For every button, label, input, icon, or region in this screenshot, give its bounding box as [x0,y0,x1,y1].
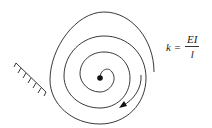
formula-lhs: k = [166,41,181,53]
formula-denominator: l [191,47,194,60]
center-pivot [97,75,103,81]
spiral-spring [50,12,154,124]
formula-fraction: EI l [185,34,199,60]
stiffness-formula: k = EI l [166,34,199,60]
spiral-spring-diagram [0,0,212,128]
formula-numerator: EI [185,34,199,47]
